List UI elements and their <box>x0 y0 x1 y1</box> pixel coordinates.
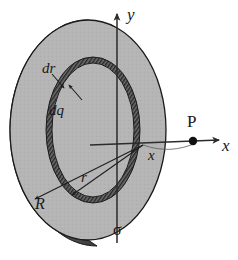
x-axis-label: x <box>222 137 230 154</box>
outer-radius-label: R <box>35 196 45 212</box>
inner-radius-label: r <box>81 170 87 185</box>
charged-disk-diagram: y x dr dq r R σ x P <box>0 0 238 260</box>
x-distance-label: x <box>148 148 155 163</box>
point-p-label: P <box>187 113 196 130</box>
point-p-marker <box>189 137 197 145</box>
y-axis-label: y <box>127 6 135 23</box>
surface-charge-density-label: σ <box>113 222 122 238</box>
dq-label: dq <box>49 103 64 118</box>
disk-face <box>10 20 166 240</box>
dr-label: dr <box>42 61 55 76</box>
